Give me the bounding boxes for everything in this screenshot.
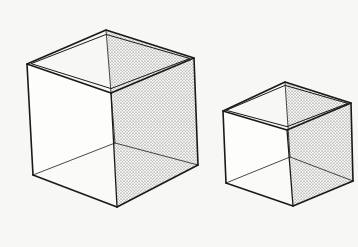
- large-cube: [27, 30, 198, 207]
- small-cube: [223, 82, 353, 206]
- illustration-canvas: Line drawing of two open-top transparent…: [0, 0, 358, 247]
- cubes-drawing: [0, 0, 358, 247]
- left-face: [27, 64, 117, 207]
